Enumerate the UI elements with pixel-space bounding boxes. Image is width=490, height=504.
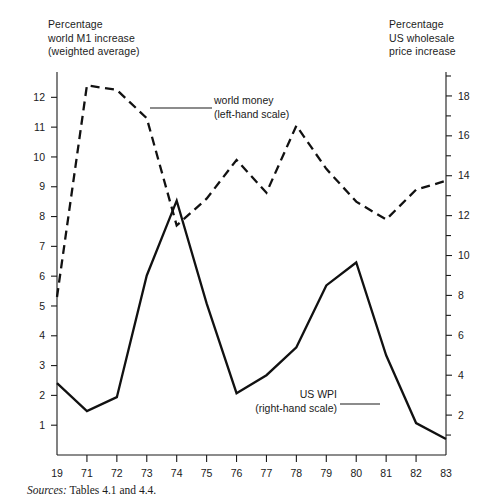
right-tick-label: 8 xyxy=(458,289,464,301)
x-tick-label: 74 xyxy=(171,467,183,479)
x-tick-label: 79 xyxy=(320,467,332,479)
x-tick-label: 71 xyxy=(81,467,93,479)
right-tick-label: 10 xyxy=(458,249,470,261)
right-tick-label: 12 xyxy=(458,209,470,221)
right-axis-caption: Percentage US wholesale price increase xyxy=(389,18,456,59)
right-axis: 24681012141618 xyxy=(446,72,470,455)
x-tick-label: 77 xyxy=(261,467,273,479)
x-tick-label: 73 xyxy=(141,467,153,479)
left-tick-label: 5 xyxy=(39,300,45,312)
right-tick-label: 6 xyxy=(458,329,464,341)
source-label: Sources: xyxy=(27,484,67,496)
right-tick-label: 18 xyxy=(458,90,470,102)
x-tick-label: 19 xyxy=(51,467,63,479)
x-tick-label: 78 xyxy=(291,467,303,479)
x-tick-label: 76 xyxy=(231,467,243,479)
x-tick-label: 72 xyxy=(111,467,123,479)
left-tick-label: 9 xyxy=(39,180,45,192)
world-money-annotation-line1: world money xyxy=(213,94,274,106)
series-us-wpi xyxy=(57,201,446,439)
left-tick-label: 1 xyxy=(39,419,45,431)
left-tick-label: 7 xyxy=(39,240,45,252)
line-chart-plot: 123456789101112 24681012141618 197172737… xyxy=(0,0,490,504)
left-tick-label: 4 xyxy=(39,329,45,341)
series-annotations: world money(left-hand scale)US WPI(right… xyxy=(150,94,380,414)
x-tick-label: 83 xyxy=(440,467,452,479)
data-series xyxy=(57,85,446,439)
us-wpi-annotation-line2: (right-hand scale) xyxy=(255,402,337,414)
left-axis: 123456789101112 xyxy=(33,72,57,455)
left-tick-label: 2 xyxy=(39,389,45,401)
source-note: Sources: Tables 4.1 and 4.4. xyxy=(27,484,156,496)
right-tick-label: 16 xyxy=(458,129,470,141)
left-tick-label: 6 xyxy=(39,270,45,282)
us-wpi-annotation-line1: US WPI xyxy=(300,388,337,400)
left-tick-label: 11 xyxy=(34,121,45,133)
x-axis: 1971727374757677787980818283 xyxy=(51,455,452,479)
chart-figure: Percentage world M1 increase (weighted a… xyxy=(0,0,490,504)
x-tick-label: 82 xyxy=(410,467,422,479)
right-tick-label: 4 xyxy=(458,369,464,381)
world-money-annotation-line2: (left-hand scale) xyxy=(214,108,289,120)
left-tick-label: 3 xyxy=(39,359,45,371)
left-axis-caption: Percentage world M1 increase (weighted a… xyxy=(48,18,140,59)
left-tick-label: 8 xyxy=(39,210,45,222)
x-tick-label: 81 xyxy=(380,467,392,479)
left-tick-label: 10 xyxy=(33,151,45,163)
x-tick-label: 75 xyxy=(201,467,213,479)
source-text: Tables 4.1 and 4.4. xyxy=(67,484,156,496)
left-tick-label: 12 xyxy=(33,91,45,103)
right-tick-label: 2 xyxy=(458,409,464,421)
x-tick-label: 80 xyxy=(350,467,362,479)
right-tick-label: 14 xyxy=(458,169,470,181)
